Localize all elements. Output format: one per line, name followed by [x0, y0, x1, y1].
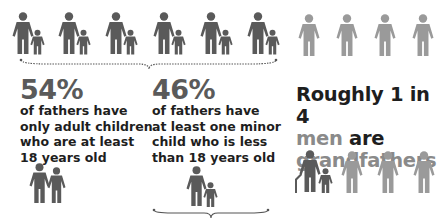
father-child-pair-icon: [105, 12, 141, 56]
father-child-pair-icon: [12, 12, 48, 56]
father-with-adult-child-icon: [29, 163, 69, 207]
stat-minor-child-line2: at least one minor: [152, 119, 292, 135]
stat-adult-children-line3: who are at least: [20, 134, 155, 150]
stat-minor-child: 46% of fathers have at least one minor c…: [152, 76, 292, 165]
grandfathers-men-accent: men: [296, 127, 343, 150]
stat-adult-children-line2: only adult children: [20, 119, 155, 135]
man-icon: [377, 151, 399, 193]
grandfathers-line1: Roughly 1 in 4: [296, 84, 445, 128]
father-child-pair-icon: [58, 12, 94, 56]
grandfather-with-cane-and-child-icon: [293, 149, 337, 195]
man-icon: [298, 14, 320, 56]
man-icon: [374, 14, 396, 56]
top-brace: [18, 56, 280, 75]
percent-46: 46%: [152, 76, 292, 103]
man-icon: [413, 151, 435, 193]
grandfathers-line2: men are: [296, 128, 445, 150]
stat-minor-child-line1: of fathers have: [152, 103, 292, 119]
father-child-pair-icon: [153, 12, 189, 56]
percent-54: 54%: [20, 76, 155, 103]
stat-adult-children: 54% of fathers have only adult children …: [20, 76, 155, 165]
father-child-pair-icon: [247, 12, 283, 56]
stat-minor-child-line3: child who is less: [152, 134, 292, 150]
bottom-brace: [152, 206, 272, 222]
man-icon: [412, 14, 434, 56]
stat-minor-child-line4: than 18 years old: [152, 150, 292, 166]
father-child-pair-icon: [200, 12, 236, 56]
stat-adult-children-line1: of fathers have: [20, 103, 155, 119]
father-with-minor-child-icon: [186, 166, 222, 208]
man-icon: [341, 151, 363, 193]
man-icon: [336, 14, 358, 56]
grandfathers-are: are: [343, 127, 385, 150]
